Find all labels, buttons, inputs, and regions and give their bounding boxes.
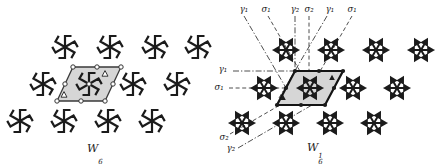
caption-right-sub: 6 [318,159,322,165]
wallpaper-group-figure: γ₁σ₁γ₂σ₂γ₁σ₁γ₁σ₁σ₂γ₂ W6 W16 [0,0,438,168]
cell-marker [71,65,75,69]
lattice-motif [319,38,343,61]
lattice-motif [142,36,168,58]
caption-left-script: 6 [98,159,102,165]
lattice-motif [252,76,276,99]
lattice-motif [52,36,78,58]
lattice-motif [364,38,388,61]
cell-marker [103,99,107,103]
cell-marker [95,65,99,69]
lattice-motif [139,110,165,132]
cell-marker [63,82,67,86]
lattice-motif [51,110,77,132]
caption-left: W6 [87,142,103,165]
lattice-motif [185,36,211,58]
cell-marker [293,69,297,73]
cell-marker [284,86,288,90]
caption-right-base: W [307,141,318,154]
lattice-left [7,36,211,132]
symmetry-axis-label: σ₂ [219,132,229,142]
lattice-motif [95,110,121,132]
lattice-motif [164,73,190,95]
lattice-motif [274,38,298,61]
symmetry-axis-label: γ₁ [326,4,335,14]
lattice-motif [30,73,56,95]
cell-marker [275,103,279,107]
symmetry-axis-label: γ₁ [219,64,228,74]
symmetry-axis-label: σ₂ [304,4,314,14]
lattice-motif [120,73,146,95]
cell-marker [332,86,336,90]
symmetry-axis-label: σ₁ [214,82,223,92]
lattice-motif [385,76,409,99]
caption-left-sub: 6 [98,159,102,165]
lattice-motif [7,110,33,132]
lattice-motif [97,36,123,58]
cell-marker [119,65,123,69]
cell-center-marker [87,82,91,86]
lattice-motif [341,76,365,99]
symmetry-axis-label: γ₁ [240,4,249,14]
cell-marker [299,103,303,107]
cell-marker [79,99,83,103]
caption-left-base: W [87,142,98,155]
cell-marker [323,103,327,107]
symmetry-axis-label: σ₁ [261,4,270,14]
cell-marker [317,69,321,73]
lattice-right [230,38,433,134]
caption-right: W16 [307,141,323,165]
cell-marker [55,99,59,103]
figure-canvas: γ₁σ₁γ₂σ₂γ₁σ₁γ₁σ₁σ₂γ₂ [0,0,438,168]
lattice-motif [362,111,386,134]
lattice-motif [318,111,342,134]
caption-right-script: 16 [318,153,322,165]
lattice-motif [230,111,254,134]
cell-marker [341,69,345,73]
symmetry-axis-label: σ₁ [347,4,356,14]
symmetry-axis-label: γ₂ [227,143,236,153]
symmetry-axis-label: γ₂ [291,4,300,14]
cell-marker [111,82,115,86]
lattice-motif [409,38,433,61]
